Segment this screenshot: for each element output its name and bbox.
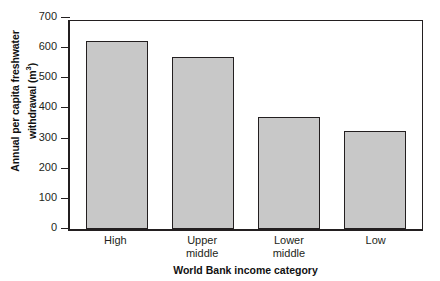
x-axis-tick-label: Low xyxy=(345,234,407,264)
bar-slot xyxy=(344,21,406,229)
y-axis-tick: 200 xyxy=(61,168,70,169)
y-axis-tick-label: 300 xyxy=(39,131,57,143)
x-axis-tick-label: Uppermiddle xyxy=(171,234,233,264)
bar-slot xyxy=(258,21,320,229)
y-axis-tick-label: 200 xyxy=(39,161,57,173)
y-axis-title-line1: Annual per capita freshwater xyxy=(9,30,21,171)
y-axis-tick: 400 xyxy=(61,107,70,108)
x-axis-tick-label-line1: Upper xyxy=(187,234,217,246)
x-axis-tick-labels: HighUppermiddleLowermiddleLow xyxy=(68,234,423,264)
y-axis-tick: 600 xyxy=(61,47,70,48)
x-axis-tick-label: High xyxy=(84,234,146,264)
y-axis-title-line2: withdrawal (m3) xyxy=(22,1,39,201)
x-axis-tick-label-line2: middle xyxy=(258,247,320,260)
y-axis-tick-label: 100 xyxy=(39,191,57,203)
x-axis-tick-label-line1: High xyxy=(104,234,127,246)
y-axis-tick-label: 500 xyxy=(39,70,57,82)
bar[interactable] xyxy=(258,117,320,229)
y-axis-tick: 0 xyxy=(61,228,70,229)
x-axis-tick-label-line1: Low xyxy=(366,234,386,246)
y-axis-tick: 100 xyxy=(61,198,70,199)
y-axis-tick-label: 600 xyxy=(39,40,57,52)
y-axis-tick-label: 400 xyxy=(39,100,57,112)
plot-area: 7006005004003002001000 xyxy=(68,20,423,231)
bar[interactable] xyxy=(86,41,148,229)
y-axis-tick-label: 700 xyxy=(39,10,57,22)
bar-chart-figure: Annual per capita freshwater withdrawal … xyxy=(0,0,440,281)
y-axis-title-exponent: 3 xyxy=(24,66,33,70)
bar[interactable] xyxy=(344,131,406,229)
bar[interactable] xyxy=(172,57,234,229)
x-axis-tick-label-line2: middle xyxy=(171,247,233,260)
y-axis-tick: 500 xyxy=(61,77,70,78)
bar-series xyxy=(70,21,422,229)
y-axis-tick: 300 xyxy=(61,138,70,139)
x-axis-title: World Bank income category xyxy=(68,264,423,276)
x-axis-tick-label: Lowermiddle xyxy=(258,234,320,264)
bar-slot xyxy=(86,21,148,229)
y-axis-title-line2-suffix: ) xyxy=(26,63,38,66)
x-axis-tick-label-line1: Lower xyxy=(274,234,304,246)
bar-slot xyxy=(172,21,234,229)
y-axis-tick: 700 xyxy=(61,17,70,18)
y-axis-tick-label: 0 xyxy=(51,221,57,233)
y-axis-title-line2-prefix: withdrawal (m xyxy=(26,70,38,139)
